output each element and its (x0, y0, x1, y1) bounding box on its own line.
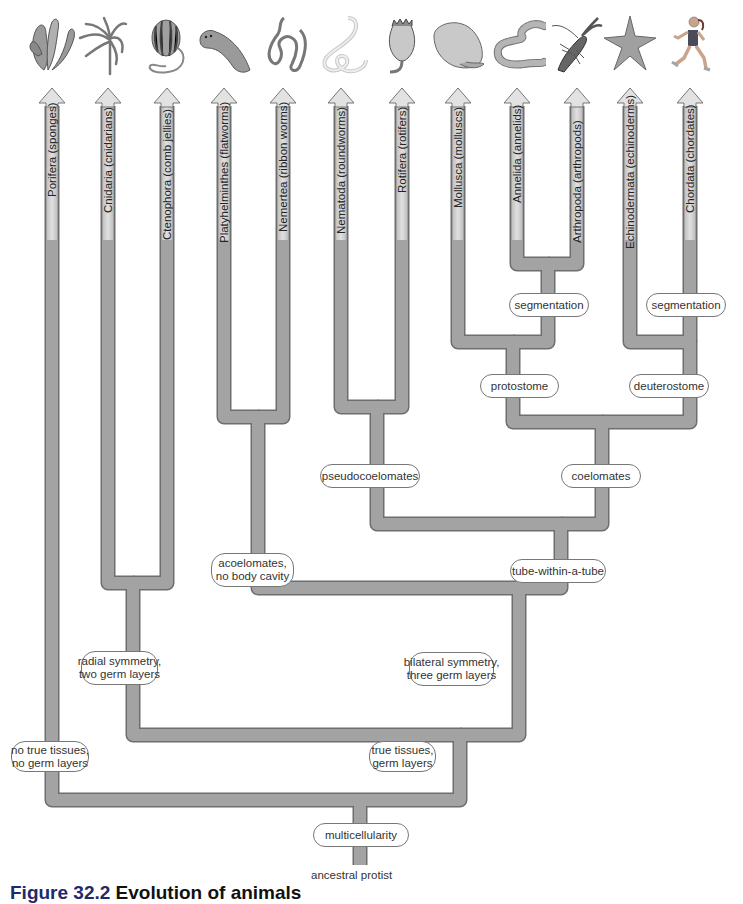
node-label-true-tissues: true tissues, germ layers (369, 741, 436, 772)
node-label-radial-symmetry: radial symmetry, two germ layers (81, 651, 158, 685)
earthworm-icon (490, 12, 546, 76)
figure-number: Figure 32.2 (10, 882, 110, 903)
rotifer-icon (374, 12, 430, 76)
phylum-label-annelida: Annelida (annelids) (511, 105, 523, 203)
radial-line-1: radial symmetry, (78, 655, 162, 668)
phylum-label-nemertea: Nemertea (ribbon worms) (277, 102, 289, 232)
radial-line-2: two germ layers (79, 668, 160, 681)
no-tissues-line-2: no germ layers (12, 757, 88, 770)
acoelomates-line-2: no body cavity (216, 570, 290, 583)
node-label-acoelomates: acoelomates, no body cavity (211, 553, 294, 587)
node-label-bilateral-symmetry: bilateral symmetry, three germ layers (409, 652, 494, 686)
node-label-protostome: protostome (480, 374, 559, 398)
node-label-no-true-tissues: no true tissues, no germ layers (11, 741, 89, 772)
comb-jelly-icon (138, 12, 194, 76)
phylum-label-cnidaria: Cnidaria (cnidarians) (102, 107, 114, 213)
node-label-segmentation-deuterostome: segmentation (646, 293, 726, 317)
node-label-coelomates: coelomates (561, 464, 641, 488)
acoelomates-line-1: acoelomates, (218, 557, 286, 570)
true-tissues-line-1: true tissues, (372, 744, 434, 757)
sea-star-icon (602, 12, 658, 76)
phylum-label-mollusca: Mollusca (molluscs) (452, 107, 464, 208)
phylum-label-nematoda: Nematoda (roundworms) (335, 107, 347, 234)
node-label-deuterostome: deuterostome (629, 374, 709, 398)
ribbon-worm-icon (256, 12, 312, 76)
phylum-label-chordata: Chordata (chordates) (684, 104, 696, 213)
figure-caption: Figure 32.2 Evolution of animals (10, 882, 301, 904)
sponge-icon (22, 12, 78, 76)
phylum-label-echinodermata: Echinodermata (echinoderms) (624, 95, 636, 249)
phylum-label-rotifera: Rotifera (rotifers) (396, 107, 408, 193)
figure-title: Evolution of animals (116, 882, 302, 903)
no-tissues-line-1: no true tissues, (11, 744, 89, 757)
true-tissues-line-2: germ layers (372, 757, 432, 770)
node-label-segmentation-protostome: segmentation (509, 293, 589, 317)
flatworm-icon (196, 12, 252, 76)
phylum-label-ctenophora: Ctenophora (comb jellies) (161, 109, 173, 240)
phylum-label-platyhelminthes: Platyhelminthes (flatworms) (218, 102, 230, 243)
root-label-ancestral-protist: ancestral protist (311, 869, 392, 881)
bilateral-line-2: three germ layers (407, 669, 496, 682)
bilateral-line-1: bilateral symmetry, (404, 656, 500, 669)
node-label-pseudocoelomates: pseudocoelomates (320, 464, 420, 488)
node-label-multicellularity: multicellularity (313, 823, 409, 847)
clam-icon (430, 12, 486, 76)
crayfish-icon (548, 12, 604, 76)
node-label-tube-within-a-tube: tube-within-a-tube (510, 559, 606, 583)
roundworm-icon (314, 12, 370, 76)
hydra-icon (76, 12, 132, 76)
human-runner-icon (662, 12, 718, 76)
phylum-label-arthropoda: Arthropoda (arthropods) (571, 120, 583, 243)
phylum-label-porifera: Porifera (sponges) (46, 102, 58, 197)
